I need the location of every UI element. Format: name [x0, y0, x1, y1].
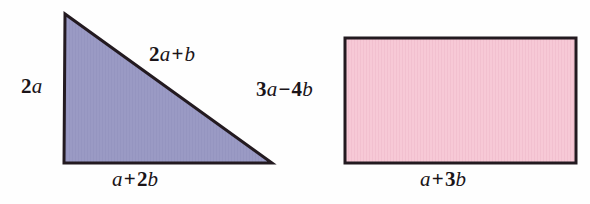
math-token-num: 2 — [149, 42, 160, 66]
triangle-shape — [64, 14, 272, 163]
math-token-num: 2 — [137, 167, 148, 191]
math-token-var: a — [420, 167, 431, 191]
rectangle-shape — [345, 38, 576, 163]
math-token-var: a — [32, 74, 43, 98]
math-token-num: 3 — [445, 167, 456, 191]
triangle-hypotenuse-label: 2a+b — [149, 44, 195, 65]
shapes-canvas — [0, 0, 590, 204]
triangle-base-label: a+2b — [112, 169, 158, 190]
math-token-op: + — [123, 167, 137, 191]
math-token-var: b — [456, 167, 467, 191]
math-token-op: + — [170, 42, 184, 66]
math-token-op: + — [431, 167, 445, 191]
geometry-figure: 2a 2a+b a+2b 3a−4b a+3b — [0, 0, 590, 204]
math-token-num: 4 — [292, 77, 303, 101]
math-token-var: b — [148, 167, 159, 191]
math-token-num: 3 — [256, 77, 267, 101]
math-token-var: a — [112, 167, 123, 191]
math-token-op: − — [277, 77, 291, 101]
rectangle-bottom-side-label: a+3b — [420, 169, 466, 190]
math-token-var: b — [302, 77, 313, 101]
rectangle-left-side-label: 3a−4b — [256, 79, 313, 100]
math-token-var: a — [267, 77, 278, 101]
triangle-left-side-label: 2a — [21, 76, 42, 97]
math-token-num: 2 — [21, 74, 32, 98]
math-token-var: a — [160, 42, 171, 66]
math-token-var: b — [185, 42, 196, 66]
